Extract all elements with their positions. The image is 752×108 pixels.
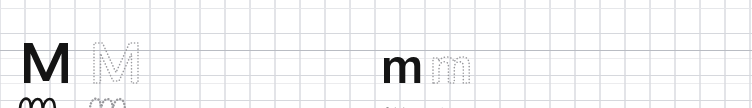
handwriting-worksheet	[0, 0, 752, 108]
cursive-m-dotted-right	[436, 74, 480, 108]
rule-line-top	[0, 8, 752, 9]
cursive-m-solid-right	[382, 74, 426, 108]
cursive-m-dotted-left	[88, 62, 146, 108]
cursive-m-solid-left	[18, 62, 76, 108]
